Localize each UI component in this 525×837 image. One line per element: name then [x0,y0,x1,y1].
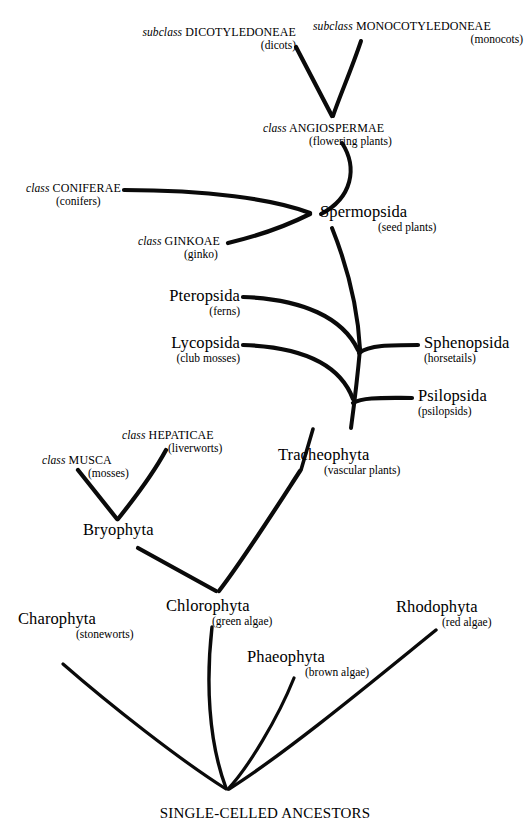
node-chlorophyta[interactable]: Chlorophyta (green algae) [166,597,336,627]
node-sphenopsida[interactable]: Sphenopsida (horsetails) [424,334,524,364]
node-monocotyledoneae-taxon: subclass MONOCOTYLEDONEAE [313,20,523,33]
node-dicotyledoneae-taxon: subclass DICOTYLEDONEAE [40,26,296,39]
branch-sphenopsida [359,345,418,353]
rank-label: class [122,429,146,441]
trunk-tracheophyta [351,349,360,428]
node-phaeophyta[interactable]: Phaeophyta (brown algae) [247,648,417,678]
rank-label: class [42,454,66,466]
branch-chlorophyta [209,627,226,788]
node-coniferae-taxon: class CONIFERAE [26,182,146,195]
node-chlorophyta-taxon: Chlorophyta [166,597,336,615]
node-rhodophyta[interactable]: Rhodophyta (red algae) [396,598,525,628]
node-monocotyledoneae[interactable]: subclass MONOCOTYLEDONEAE (monocots) [313,20,523,45]
node-angiospermae-taxon: class ANGIOSPERMAE [263,122,463,135]
node-bryophyta-taxon: Bryophyta [83,521,203,539]
node-psilopsida[interactable]: Psilopsida (psilopsids) [418,387,518,417]
node-single-celled-ancestors[interactable]: SINGLE-CELLED ANCESTORS [120,805,410,822]
node-dicotyledoneae[interactable]: subclass DICOTYLEDONEAE (dicots) [40,26,296,51]
branch-pteropsida [243,297,358,350]
node-dicotyledoneae-common: (dicots) [40,39,296,51]
phylogenetic-tree-diagram: subclass DICOTYLEDONEAE (dicots) subclas… [0,0,525,837]
node-ginkoae[interactable]: class GINKOAE (ginko) [138,235,248,260]
branch-lycopsida [243,345,353,399]
node-hepaticae-common: (liverworts) [122,442,262,454]
node-hepaticae[interactable]: class HEPATICAE (liverworts) [122,429,262,454]
rank-label: subclass [313,20,353,32]
node-ginkoae-taxon: class GINKOAE [138,235,248,248]
node-charophyta-common: (stoneworts) [18,628,188,640]
node-pteropsida[interactable]: Pteropsida (ferns) [110,287,240,317]
node-monocotyledoneae-common: (monocots) [313,33,523,45]
node-rhodophyta-taxon: Rhodophyta [396,598,525,616]
node-musca-taxon: class MUSCA [42,454,162,467]
node-coniferae-common: (conifers) [26,195,146,207]
node-tracheophyta[interactable]: Tracheophyta (vascular plants) [278,446,458,476]
node-sphenopsida-common: (horsetails) [424,352,524,364]
node-chlorophyta-common: (green algae) [166,615,336,627]
node-musca[interactable]: class MUSCA (mosses) [42,454,162,479]
node-musca-common: (mosses) [42,467,162,479]
rank-label: class [26,182,50,194]
node-coniferae[interactable]: class CONIFERAE (conifers) [26,182,146,207]
rank-label: subclass [142,26,182,38]
node-psilopsida-common: (psilopsids) [418,405,518,417]
node-lycopsida-common: (club mosses) [90,352,240,364]
node-angiospermae-common: (flowering plants) [263,135,463,147]
branch-dicotyledoneae [296,47,332,116]
node-rhodophyta-common: (red algae) [396,616,525,628]
node-angiospermae[interactable]: class ANGIOSPERMAE (flowering plants) [263,122,463,147]
branch-phaeophyta [228,678,294,789]
node-spermopsida-taxon: Spermopsida [320,203,480,221]
node-psilopsida-taxon: Psilopsida [418,387,518,405]
node-pteropsida-common: (ferns) [110,305,240,317]
node-hepaticae-taxon: class HEPATICAE [122,429,262,442]
rank-label: class [138,235,162,247]
branch-charophyta [63,664,226,789]
branch-monocotyledoneae [333,41,361,116]
node-lycopsida-taxon: Lycopsida [90,334,240,352]
branch-psilopsida [353,398,412,403]
node-tracheophyta-taxon: Tracheophyta [278,446,458,464]
node-charophyta[interactable]: Charophyta (stoneworts) [18,610,188,640]
node-spermopsida[interactable]: Spermopsida (seed plants) [320,203,480,233]
node-pteropsida-taxon: Pteropsida [110,287,240,305]
node-ginkoae-common: (ginko) [138,248,248,260]
node-sphenopsida-taxon: Sphenopsida [424,334,524,352]
branch-coniferae [124,190,310,213]
node-bryophyta[interactable]: Bryophyta [83,521,203,539]
rank-label: class [263,122,287,134]
node-lycopsida[interactable]: Lycopsida (club mosses) [90,334,240,364]
branch-tracheophyta [219,471,300,591]
node-spermopsida-common: (seed plants) [320,221,480,233]
node-phaeophyta-taxon: Phaeophyta [247,648,417,666]
branch-bryophyta [138,548,216,591]
node-phaeophyta-common: (brown algae) [247,666,417,678]
node-tracheophyta-common: (vascular plants) [278,464,458,476]
node-charophyta-taxon: Charophyta [18,610,188,628]
